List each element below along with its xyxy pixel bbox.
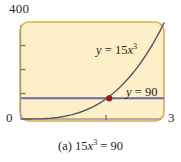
line-label-equals: = xyxy=(135,85,142,99)
curve-label-coefficient: 15 xyxy=(115,43,128,57)
caption-rhs: 90 xyxy=(110,139,123,153)
curve-label-equals: = xyxy=(105,43,112,57)
figure-caption: (a) 15x3 = 90 xyxy=(0,139,181,153)
caption-exponent: 3 xyxy=(93,138,97,147)
line-label-value: 90 xyxy=(145,85,158,99)
screen-background xyxy=(20,22,164,121)
x-axis-max-label: 3 xyxy=(168,111,175,124)
origin-label: 0 xyxy=(6,111,13,124)
caption-prefix: (a) xyxy=(58,139,72,153)
y-axis-max-label: 400 xyxy=(9,2,29,15)
plot-svg xyxy=(19,21,165,122)
caption-coefficient: 15 xyxy=(75,139,88,153)
plot-panel xyxy=(19,21,165,122)
curve-equation-label: y = 15x3 xyxy=(96,44,137,57)
graph-figure: 400 0 3 xyxy=(0,0,181,162)
curve-label-exponent: 3 xyxy=(133,42,137,51)
caption-relation: = xyxy=(100,139,107,153)
line-equation-label: y = 90 xyxy=(126,86,157,99)
intersection-point-marker xyxy=(106,95,112,101)
